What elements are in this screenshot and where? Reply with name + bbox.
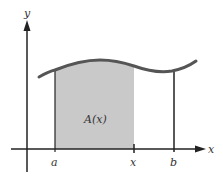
tick-label-a: a	[51, 156, 58, 169]
y-axis-arrow-icon	[24, 20, 31, 31]
x-axis-arrow-icon	[195, 146, 206, 153]
diagram-canvas: y x a x b A(x)	[0, 0, 223, 181]
area-label: A(x)	[83, 113, 107, 126]
tick-label-x: x	[130, 156, 137, 169]
shaded-area-region	[55, 60, 134, 149]
area-function-diagram: y x a x b A(x)	[0, 0, 223, 181]
tick-label-b: b	[170, 156, 177, 169]
y-axis-label: y	[23, 7, 31, 20]
x-axis-label: x	[208, 143, 215, 156]
